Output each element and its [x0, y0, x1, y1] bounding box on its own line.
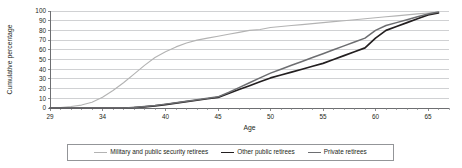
x-tick-label: 60	[372, 113, 380, 120]
y-tick-label: 60	[39, 46, 47, 53]
y-tick-label: 30	[39, 75, 47, 82]
x-tick-label: 40	[162, 113, 170, 120]
y-tick-label: 80	[39, 27, 47, 34]
y-tick-label: 90	[39, 17, 47, 24]
x-tick-label: 55	[319, 113, 327, 120]
y-tick-label: 50	[39, 56, 47, 63]
chart-legend: Military and public security retirees Ot…	[67, 144, 394, 161]
legend-label-military: Military and public security retirees	[110, 149, 208, 155]
x-tick-label: 45	[214, 113, 222, 120]
legend-item-military[interactable]: Military and public security retirees	[94, 149, 208, 155]
legend-item-other-public[interactable]: Other public retirees	[221, 149, 295, 155]
y-tick-label: 0	[42, 104, 46, 111]
x-tick-label: 50	[267, 113, 275, 120]
x-axis-title: Age	[243, 124, 255, 132]
cumulative-retirement-age-chart: 01020304050607080901002934404550556065Ag…	[0, 0, 462, 168]
y-tick-label: 20	[39, 85, 47, 92]
y-tick-label: 40	[39, 66, 47, 73]
y-tick-label: 10	[39, 95, 47, 102]
series-line-0	[50, 12, 439, 108]
legend-label-private: Private retirees	[324, 149, 367, 155]
legend-swatch-military	[94, 152, 107, 153]
y-tick-label: 100	[35, 7, 46, 14]
x-tick-label: 34	[99, 113, 107, 120]
chart-svg: 01020304050607080901002934404550556065Ag…	[0, 0, 462, 140]
plot-area: 01020304050607080901002934404550556065Ag…	[0, 0, 462, 140]
legend-item-private[interactable]: Private retirees	[308, 149, 367, 155]
y-tick-label: 70	[39, 36, 47, 43]
x-tick-label: 65	[424, 113, 432, 120]
legend-swatch-other-public	[221, 152, 234, 153]
legend-swatch-private	[308, 152, 321, 153]
x-tick-label: 29	[46, 113, 54, 120]
y-axis-title: Cumulative percentage	[6, 24, 14, 94]
legend-label-other-public: Other public retirees	[237, 149, 295, 155]
